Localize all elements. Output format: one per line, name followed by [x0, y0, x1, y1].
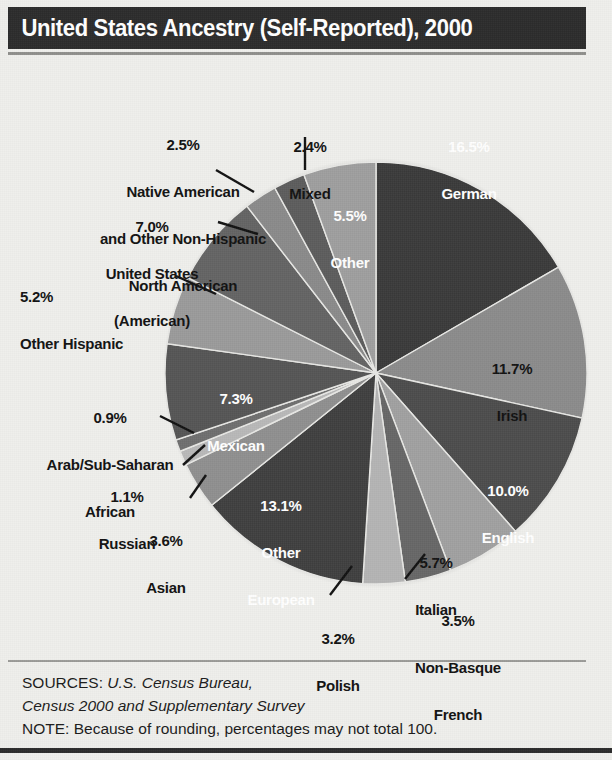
note-line: NOTE: Because of rounding, percentages m…: [22, 720, 437, 738]
sources-prefix: SOURCES:: [22, 674, 107, 691]
slice-label-other-hispanic: 5.2% Other Hispanic: [20, 258, 210, 383]
chart-page: United States Ancestry (Self-Reported), …: [0, 0, 612, 760]
pie-chart: 16.5% German 11.7% Irish 10.0% English 5…: [0, 58, 612, 650]
slice-label-irish: 11.7% Irish: [452, 330, 572, 455]
footer-bottom-rule: [0, 748, 612, 753]
page-title: United States Ancestry (Self-Reported), …: [8, 15, 472, 42]
sources-line-1: SOURCES: U.S. Census Bureau,: [22, 674, 253, 692]
slice-label-asian: 3.6% Asian: [114, 502, 218, 627]
title-underline: [8, 52, 586, 55]
footer-rule: [8, 660, 586, 662]
slice-label-german: 16.5% German: [404, 108, 534, 233]
sources-line-2: Census 2000 and Supplementary Survey: [22, 697, 305, 715]
title-bar: United States Ancestry (Self-Reported), …: [8, 7, 586, 49]
sources-italic-1: U.S. Census Bureau,: [107, 674, 253, 691]
slice-label-mixed: 2.4% Mixed: [265, 108, 355, 233]
